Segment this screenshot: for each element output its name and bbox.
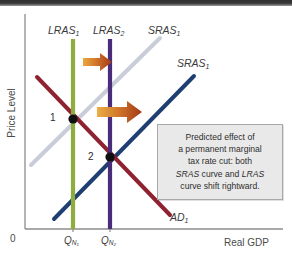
curve-sras1-initial — [31, 38, 160, 165]
callout-line-4: SRAS curve and LRAS — [163, 168, 277, 180]
callout-line-3: tax rate cut: both — [163, 155, 277, 167]
callout-line-4-mid: curve and — [199, 169, 242, 179]
curve-label-lras2: LRAS2 — [93, 25, 124, 36]
equilibrium-point-2 — [105, 152, 114, 161]
callout-line-1: Predicted effect of — [163, 131, 277, 143]
callout-em-sras: SRAS — [176, 169, 199, 179]
callout-box: Predicted effect of a permanent marginal… — [157, 124, 283, 200]
equilibrium-label-2: 2 — [88, 152, 94, 162]
y-axis-label: Price Level — [7, 78, 17, 148]
equilibrium-label-1: 1 — [50, 113, 56, 123]
x-axis-label: Real GDP — [224, 238, 269, 248]
equilibrium-point-1 — [68, 114, 77, 123]
callout-line-5: curve shift rightward. — [163, 180, 277, 192]
economics-diagram: LRAS1 LRAS2 SRAS1 SRAS1 AD1 1 2 0 QN1 QN… — [0, 0, 292, 261]
lower-shift-arrow — [97, 101, 142, 123]
curve-label-ad1: AD1 — [170, 212, 188, 223]
origin-label: 0 — [10, 234, 16, 244]
callout-line-2: a permanent marginal — [163, 143, 277, 155]
x-tick-label-qn2: QN2 — [101, 236, 116, 246]
x-tick-label-qn1: QN1 — [64, 236, 79, 246]
curve-ad1 — [37, 77, 170, 215]
upper-shift-arrow — [83, 53, 112, 71]
curve-label-lras1: LRAS1 — [48, 25, 79, 36]
curve-label-sras1-shifted: SRAS1 — [177, 58, 209, 69]
callout-em-lras: LRAS — [242, 169, 264, 179]
curve-label-sras1-initial: SRAS1 — [148, 25, 180, 36]
